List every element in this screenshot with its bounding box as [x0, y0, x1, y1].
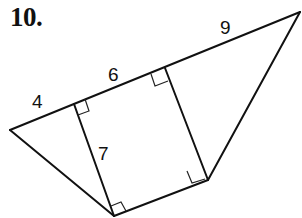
bottom-edge [114, 180, 208, 216]
right-angle-mark-top-right [151, 74, 168, 86]
right-angle-mark-bottom-left [111, 202, 126, 211]
rectangle-right-side [165, 68, 208, 180]
label-segment-9: 9 [220, 17, 231, 38]
top-edge [10, 12, 300, 130]
label-segment-7: 7 [98, 143, 109, 164]
label-segment-6: 6 [108, 64, 119, 85]
geometry-figure: 4 6 9 7 [0, 0, 302, 218]
label-segment-4: 4 [32, 91, 43, 112]
